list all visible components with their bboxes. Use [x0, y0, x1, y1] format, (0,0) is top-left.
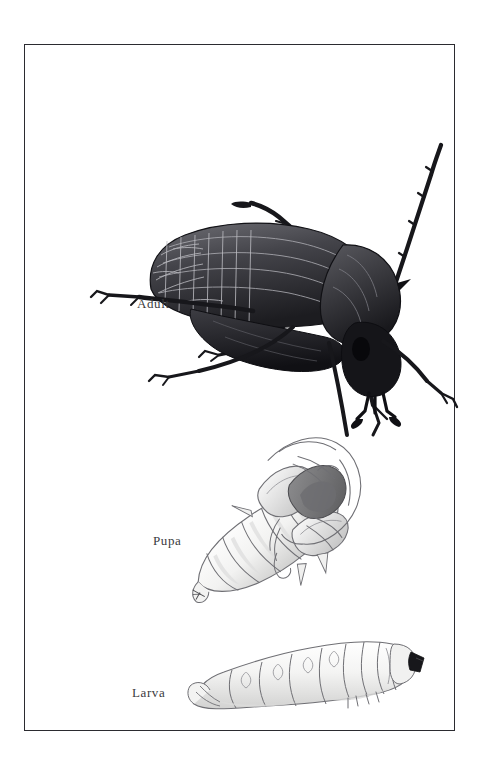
larva-mandibles [409, 652, 424, 672]
illustration-plate: Adult Pupa Larva [0, 0, 478, 757]
adult-beetle-figure [43, 105, 463, 435]
pupa-figure [165, 443, 385, 618]
larva-figure [180, 620, 425, 715]
stage-label-adult: Adult [137, 296, 170, 312]
plate-frame: Adult Pupa Larva [24, 44, 455, 731]
larva-body [188, 642, 424, 709]
stage-label-larva: Larva [132, 685, 165, 701]
larva-head-capsule [390, 644, 424, 684]
adult-eye [352, 337, 370, 361]
adult-head [342, 322, 402, 429]
stage-label-pupa: Pupa [153, 533, 181, 549]
